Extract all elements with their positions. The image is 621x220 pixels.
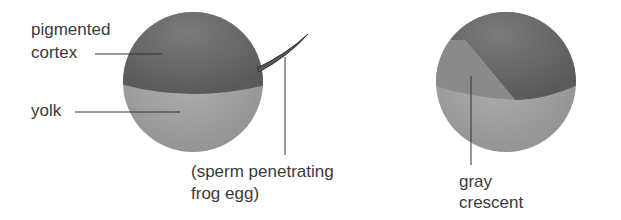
left-egg [120, 0, 270, 170]
label-gray-2: crescent [459, 193, 523, 213]
label-pigmented-2: cortex [31, 43, 77, 63]
label-yolk: yolk [31, 101, 61, 121]
label-sperm-2: frog egg) [191, 184, 259, 204]
label-pigmented-1: pigmented [31, 20, 110, 40]
label-sperm-1: (sperm penetrating [191, 162, 334, 182]
label-gray-1: gray [459, 172, 492, 192]
sperm-icon [257, 34, 308, 72]
right-egg [430, 0, 580, 170]
